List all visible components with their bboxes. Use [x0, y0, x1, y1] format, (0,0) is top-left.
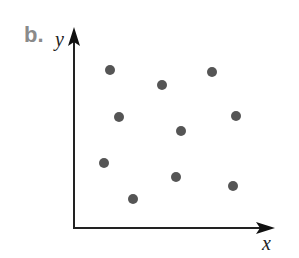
scatter-plot: y x [0, 0, 299, 258]
data-point [157, 80, 167, 90]
data-point [231, 111, 241, 121]
data-points [99, 65, 241, 204]
data-point [99, 158, 109, 168]
data-point [207, 67, 217, 77]
data-point [128, 194, 138, 204]
data-point [114, 112, 124, 122]
data-point [176, 126, 186, 136]
data-point [105, 65, 115, 75]
data-point [171, 172, 181, 182]
axes [68, 27, 275, 234]
x-axis-label: x [261, 232, 271, 254]
y-axis-label: y [53, 28, 64, 51]
data-point [228, 181, 238, 191]
